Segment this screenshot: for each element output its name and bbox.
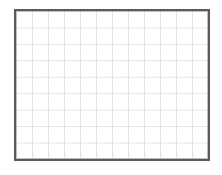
grid-canvas[interactable] — [14, 9, 210, 161]
